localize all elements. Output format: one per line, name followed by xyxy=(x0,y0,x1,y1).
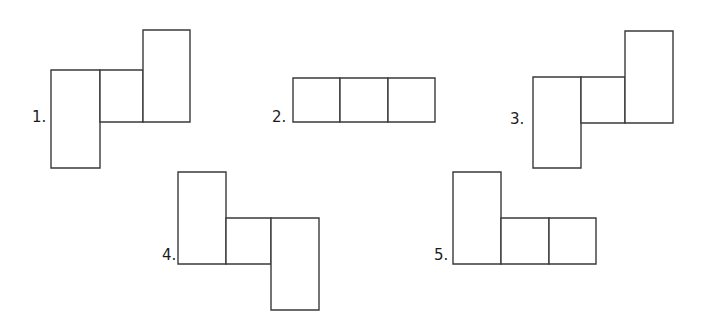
figure-4-left-tall-rect xyxy=(178,172,226,264)
figure-1-left-tall-rect xyxy=(51,70,100,168)
figure-3-right-tall-rect xyxy=(625,31,673,123)
figure-label-1: 1. xyxy=(32,110,46,125)
figure-label-2: 2. xyxy=(272,110,286,125)
figure-2-square-middle xyxy=(340,78,388,122)
figure-5-bottom-square-middle xyxy=(501,218,549,264)
figure-label-3: 3. xyxy=(510,112,524,127)
figure-3-drawing xyxy=(531,29,675,170)
figure-5-drawing xyxy=(451,170,598,266)
figure-4-middle-square xyxy=(226,218,271,264)
figure-2-square-right xyxy=(388,78,435,122)
figure-2-drawing xyxy=(291,76,437,124)
figure-1-middle-square xyxy=(100,70,143,122)
figure-4 xyxy=(176,170,321,312)
worksheet-canvas: 1.2.3.4.5. xyxy=(0,0,703,325)
figure-5-left-tall-rect xyxy=(453,172,501,264)
figure-5 xyxy=(451,170,598,266)
figure-2-square-left xyxy=(293,78,340,122)
figure-3-middle-square xyxy=(581,77,625,123)
figure-5-bottom-square-right xyxy=(549,218,596,264)
figure-4-right-tall-rect xyxy=(271,218,319,310)
figure-1-right-tall-rect xyxy=(143,30,190,122)
figure-3-left-tall-rect xyxy=(533,77,581,168)
figure-1 xyxy=(49,28,192,170)
figure-2 xyxy=(291,76,437,124)
figure-3 xyxy=(531,29,675,170)
figure-label-4: 4. xyxy=(162,248,176,263)
figure-4-drawing xyxy=(176,170,321,312)
figure-1-drawing xyxy=(49,28,192,170)
figure-label-5: 5. xyxy=(434,248,448,263)
